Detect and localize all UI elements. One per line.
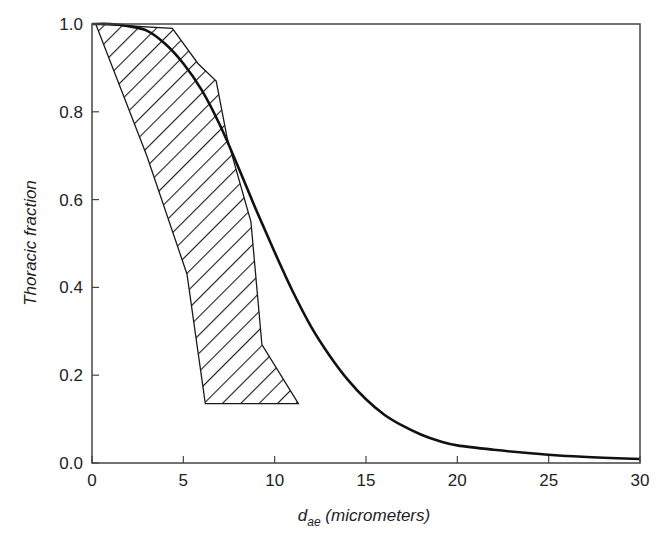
x-tick-label: 20 bbox=[448, 471, 467, 490]
y-tick-label: 0.4 bbox=[59, 278, 83, 297]
y-tick-label: 0.8 bbox=[59, 103, 83, 122]
x-tick-label: 0 bbox=[87, 471, 96, 490]
x-tick-label: 30 bbox=[631, 471, 650, 490]
y-axis: 0.00.20.40.60.81.0 bbox=[59, 15, 99, 473]
chart: 051015202530 0.00.20.40.60.81.0 Thoracic… bbox=[0, 0, 668, 546]
y-axis-title: Thoracic fraction bbox=[21, 180, 40, 306]
x-axis-title-subscript: ae bbox=[307, 515, 321, 529]
x-axis-title-unit: (micrometers) bbox=[321, 506, 431, 525]
y-tick-label: 0.6 bbox=[59, 191, 83, 210]
x-tick-label: 25 bbox=[539, 471, 558, 490]
y-tick-label: 0.2 bbox=[59, 366, 83, 385]
x-axis-title: dae (micrometers) bbox=[298, 506, 430, 529]
x-axis: 051015202530 bbox=[87, 456, 649, 490]
x-tick-label: 5 bbox=[179, 471, 188, 490]
y-tick-label: 1.0 bbox=[59, 15, 83, 34]
x-tick-label: 10 bbox=[265, 471, 284, 490]
y-tick-label: 0.0 bbox=[59, 454, 83, 473]
x-tick-label: 15 bbox=[357, 471, 376, 490]
